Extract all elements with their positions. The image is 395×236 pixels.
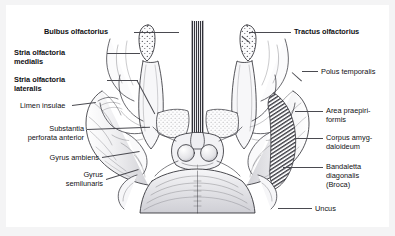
label-bulbus-olfactorius: Bulbus olfactorius <box>44 27 108 36</box>
anatomical-figure: Bulbus olfactorius Tractus olfactorius S… <box>0 0 395 236</box>
leader-limen-insulae <box>72 102 96 106</box>
leader-polus-temporalis <box>302 71 318 72</box>
label-stria-olfactoria-medialis: Stria olfactoria medialis <box>14 48 65 66</box>
leader-uncus <box>278 208 312 209</box>
leader-substantia-perforata <box>87 127 150 130</box>
leader-tractus-olfactorius-hook <box>242 36 250 43</box>
label-gyrus-semilunaris: Gyrus semilunaris <box>34 170 103 188</box>
leader-area-praepiriformis <box>295 111 323 112</box>
leader-stria-lateralis-drop <box>137 80 156 114</box>
leader-tractus-olfactorius <box>249 32 291 33</box>
label-polus-temporalis: Polus temporalis <box>321 67 375 76</box>
leader-stria-lateralis <box>107 80 138 81</box>
label-bandaletta-diagonalis: Bandaletta diagonalis (Broca) <box>326 162 361 190</box>
leader-gyrus-semilunaris <box>106 169 139 180</box>
leader-stria-medialis <box>107 53 140 54</box>
leader-gyrus-ambiens <box>102 151 140 158</box>
leader-bulbus-olfactorius <box>134 32 179 33</box>
label-limen-insulae: Limen insulae <box>20 101 65 110</box>
label-substantia-perforata-anterior: Substantia perforata anterior <box>7 124 84 142</box>
leader-polus-temporalis-hook <box>292 72 302 81</box>
label-uncus: Uncus <box>315 204 336 213</box>
label-corpus-amygdaloideum: Corpus amyg- daloideum <box>326 133 372 151</box>
leader-corpus-amygdaloideum <box>295 138 323 139</box>
label-area-praepiriformis: Area praepiri- formis <box>326 106 371 124</box>
label-tractus-olfactorius: Tractus olfactorius <box>294 27 359 36</box>
figure-plate: Bulbus olfactorius Tractus olfactorius S… <box>6 5 389 227</box>
label-gyrus-ambiens: Gyrus ambiens <box>26 153 99 162</box>
leader-bandaletta-diagonalis <box>283 167 323 168</box>
label-stria-olfactoria-lateralis: Stria olfactoria lateralis <box>14 75 65 93</box>
